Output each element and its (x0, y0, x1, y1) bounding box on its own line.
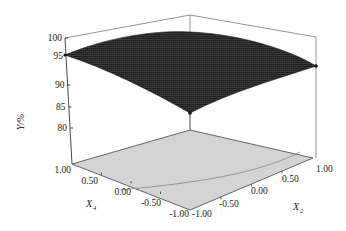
x4-tick-0.00: 0.00 (114, 187, 131, 197)
x2-tick-neg0.50: -0.50 (219, 199, 239, 209)
z-tick-80: 80 (58, 123, 68, 133)
z-tick-95: 95 (54, 51, 64, 61)
surface-corner-marker-left (63, 53, 66, 56)
svg-text:2: 2 (300, 207, 304, 214)
x2-axis-title: X 2 (292, 201, 304, 214)
z-tick-90: 90 (55, 80, 65, 90)
svg-text:4: 4 (93, 204, 97, 211)
svg-text:X: X (85, 198, 93, 209)
surface-corner-marker-front (188, 111, 192, 115)
x4-tick-neg0.50: -0.50 (141, 198, 161, 208)
x4-tick-0.50: 0.50 (81, 176, 98, 186)
x2-tick-0.00: 0.00 (251, 186, 268, 196)
x2-tick-1.00: 1.00 (316, 164, 333, 174)
x2-tick-0.50: 0.50 (282, 174, 299, 184)
surface-corner-marker-right (314, 64, 318, 68)
x4-axis-title: X 4 (85, 198, 97, 211)
z-axis-title: Y/% (15, 114, 26, 131)
x2-tick-neg1.00: -1.00 (192, 209, 212, 219)
response-surface (63, 32, 317, 115)
floor-plane (72, 130, 313, 210)
x4-tick-neg1.00: -1.00 (169, 209, 189, 219)
response-surface-plot: 100 95 90 85 80 Y/% 1.00 0.50 0.00 -0.50… (0, 0, 346, 231)
z-tick-100: 100 (48, 33, 63, 43)
x4-tick-1.00: 1.00 (54, 165, 71, 175)
svg-text:X: X (292, 201, 300, 212)
z-tick-labels: 100 95 90 85 80 (48, 33, 68, 133)
z-tick-85: 85 (56, 102, 66, 112)
